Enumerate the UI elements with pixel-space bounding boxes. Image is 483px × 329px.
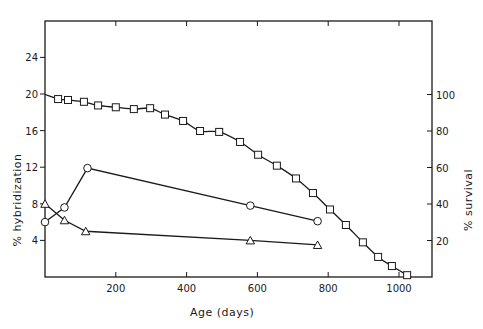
square-marker [112,104,119,111]
square-marker [375,253,382,260]
series-circle [41,164,321,226]
y-tick-label: 16 [25,126,38,137]
square-marker [404,272,411,279]
square-marker [359,239,366,246]
square-marker [197,128,204,135]
square-marker [273,162,280,169]
x-tick-label: 1000 [386,283,411,294]
x-tick-label: 800 [319,283,338,294]
y-tick-label: 24 [25,52,38,63]
plot-border [45,21,432,277]
circle-marker [314,217,322,225]
plot-frame [45,21,432,277]
circle-marker [41,218,49,226]
y-tick-label: 20 [25,89,38,100]
square-marker [342,221,349,228]
left-y-axis-label: % hybridization [11,153,24,246]
series-square [45,95,411,279]
square-marker [388,263,395,270]
square-marker [216,128,223,135]
y-tick-label: 4 [32,235,38,246]
square-marker [255,151,262,158]
square-marker [180,117,187,124]
y-right-tick-label: 100 [436,90,455,101]
circle-marker [247,202,255,210]
square-marker [130,106,137,113]
y-right-tick-label: 40 [436,199,449,210]
chart: 2004006008001000 4812162024 20406080100 … [0,0,483,329]
y-tick-label: 12 [25,162,38,173]
square-marker [95,102,102,109]
square-marker [292,175,299,182]
square-marker [326,206,333,213]
data-series [41,95,411,279]
x-tick-label: 400 [177,283,196,294]
square-marker [162,111,169,118]
x-axis-label: Age (days) [190,306,254,319]
right-y-axis-label: % survival [462,169,475,231]
square-marker [55,96,62,103]
left-y-axis-ticks: 4812162024 [25,52,45,246]
series-line [45,95,407,276]
circle-marker [61,204,69,212]
y-right-tick-label: 20 [436,236,449,247]
square-marker [147,105,154,112]
square-marker [65,96,72,103]
y-tick-label: 8 [32,199,38,210]
circle-marker [84,164,92,172]
square-marker [80,98,87,105]
y-right-tick-label: 60 [436,163,449,174]
right-y-axis-ticks: 20406080100 [427,90,455,247]
x-tick-label: 600 [248,283,267,294]
x-tick-label: 200 [106,283,125,294]
series-line [45,204,318,245]
square-marker [237,138,244,145]
y-right-tick-label: 80 [436,126,449,137]
series-line [45,168,318,222]
series-triangle [41,200,322,249]
square-marker [309,190,316,197]
